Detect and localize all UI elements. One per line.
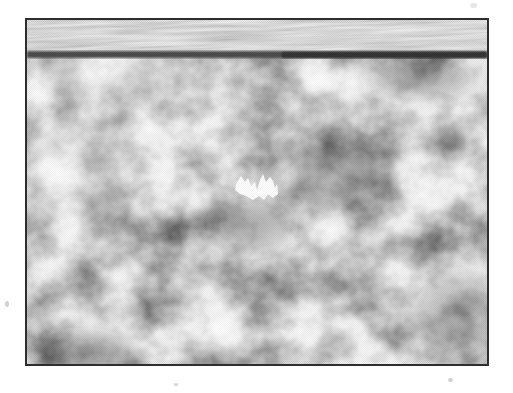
scanned-page-background	[0, 0, 513, 393]
scan-speck	[448, 378, 453, 382]
photo-frame	[25, 18, 489, 366]
granulation-field	[27, 46, 487, 364]
band-divider-dark-segment	[282, 52, 487, 58]
photo-texture-canvas	[27, 20, 487, 364]
scan-speck	[5, 301, 9, 307]
scan-speck	[174, 383, 178, 386]
scan-speck	[470, 3, 477, 8]
